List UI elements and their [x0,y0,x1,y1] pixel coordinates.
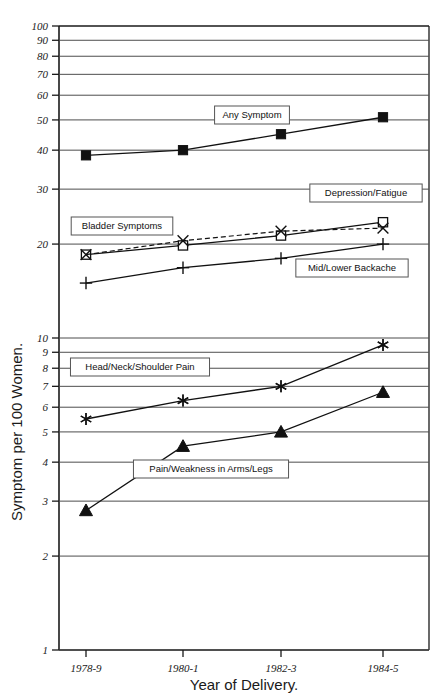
y-tick-label: 70 [37,68,49,80]
y-tick-label: 100 [32,20,49,32]
data-point [178,241,187,250]
data-point [178,146,187,155]
callout-depression-fatigue: Depression/Fatigue [310,184,422,202]
callout-text: Mid/Lower Backache [308,262,396,273]
y-tick-label: 90 [37,34,49,46]
callout-mid-lower-backache: Mid/Lower Backache [296,259,408,277]
y-tick-label: 20 [37,238,49,250]
callout-text: Bladder Symptoms [82,220,163,231]
x-tick-label: 1978-9 [70,662,102,674]
y-tick-label: 4 [43,456,49,468]
callout-bladder-symptoms: Bladder Symptoms [71,217,173,235]
callout-head-neck-shoulder-pain: Head/Neck/Shoulder Pain [70,358,209,376]
callout-text: Head/Neck/Shoulder Pain [85,361,194,372]
y-tick-label: 7 [43,380,49,392]
series-callout-layer: Any SymptomDepression/FatigueBladder Sym… [70,106,422,478]
x-tick-label: 1984-5 [367,662,399,674]
y-tick-label: 8 [43,362,49,374]
y-tick-label: 10 [37,332,49,344]
x-ticks-group: 1978-91980-11982-31984-5 [70,650,399,674]
y-tick-label: 40 [37,144,49,156]
data-point [276,231,285,240]
y-tick-label: 6 [43,401,49,413]
x-tick-label: 1980-1 [167,662,198,674]
y-axis-title: Symptom per 100 Women. [8,343,25,521]
data-point [275,425,288,437]
y-tick-label: 2 [43,550,49,562]
y-tick-label: 9 [43,346,49,358]
data-point [377,386,390,398]
callout-text: Any Symptom [222,109,281,120]
y-tick-label: 5 [43,426,49,438]
y-tick-label: 60 [37,89,49,101]
data-point [276,130,285,139]
callout-pain-weakness-in-arms-legs: Pain/Weakness in Arms/Legs [133,460,288,478]
callout-text: Depression/Fatigue [325,187,407,198]
y-tick-label: 30 [36,183,49,195]
y-tick-label: 80 [37,50,49,62]
y-tick-label: 1 [43,644,49,656]
series-line [86,345,383,419]
callout-text: Pain/Weakness in Arms/Legs [149,463,273,474]
chart-container: 100908070605040302010987654321 Symptom p… [0,0,444,698]
symptom-trend-chart: 100908070605040302010987654321 Symptom p… [0,0,444,698]
data-point [378,113,387,122]
y-tick-label: 50 [37,114,49,126]
y-tick-label: 3 [42,495,49,507]
x-axis-title: Year of Delivery. [190,676,298,693]
data-series-layer [80,113,390,516]
data-point [80,504,93,516]
x-tick-label: 1982-3 [265,662,297,674]
data-point [81,151,90,160]
series-pain-weakness-in-arms-legs [80,386,390,516]
callout-any-symptom: Any Symptom [215,106,290,124]
